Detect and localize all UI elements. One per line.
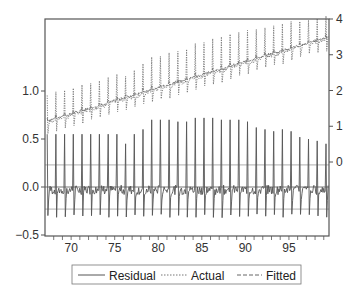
residual-series [47,118,328,218]
x-tick-label: 95 [282,241,296,255]
left-tick-label: 0.0 [22,180,39,194]
residual-actual-fitted-chart: −0.50.00.51.0 01234 707580859095 Residua… [0,0,357,300]
legend: Residual Actual Fitted [72,265,301,284]
left-y-axis: −0.50.00.51.0 [15,84,45,242]
right-y-axis: 01234 [329,12,343,169]
residual-line [47,118,328,218]
right-tick-label: 1 [336,119,343,133]
fitted-line [47,34,328,121]
right-tick-label: 2 [336,84,343,98]
left-tick-label: −0.5 [15,228,39,242]
right-tick-label: 0 [336,155,343,169]
x-tick-label: 90 [239,241,253,255]
x-axis: 707580859095 [54,236,324,255]
right-tick-label: 3 [336,48,343,62]
right-tick-label: 4 [336,12,343,26]
x-tick-label: 80 [152,241,166,255]
legend-fitted-label: Fitted [266,269,296,283]
left-tick-label: 0.5 [22,132,39,146]
actual-series [47,16,328,134]
x-tick-label: 85 [195,241,209,255]
fitted-series [47,34,328,121]
x-tick-label: 75 [108,241,122,255]
legend-actual-label: Actual [191,269,224,283]
legend-residual-label: Residual [109,269,156,283]
left-tick-label: 1.0 [22,84,39,98]
x-tick-label: 70 [64,241,78,255]
actual-line [47,16,328,134]
